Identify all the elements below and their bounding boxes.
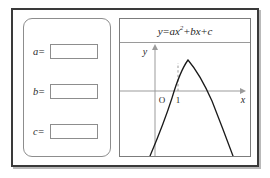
graph-display-panel: y=ax2+bx+c y x O bbox=[119, 18, 251, 157]
coefficient-input-a[interactable] bbox=[50, 44, 98, 59]
coefficient-label-c: c= bbox=[33, 126, 50, 137]
plot-area: y x O 1 bbox=[120, 43, 250, 156]
frame-inner-surface: a= b= c= y=ax2+bx+c bbox=[15, 12, 255, 163]
x-axis-label: x bbox=[240, 94, 246, 105]
y-axis-arrowhead bbox=[152, 44, 158, 50]
application-frame: a= b= c= y=ax2+bx+c bbox=[11, 8, 259, 167]
y-axis-label: y bbox=[142, 46, 148, 57]
coefficient-input-c[interactable] bbox=[50, 124, 98, 139]
coefficient-row-c: c= bbox=[33, 123, 105, 140]
coefficient-input-panel: a= b= c= bbox=[23, 18, 111, 157]
formula-bar: y=ax2+bx+c bbox=[120, 19, 250, 43]
coefficient-label-a: a= bbox=[33, 46, 50, 57]
formula-c: c bbox=[208, 25, 213, 37]
parabola-curve bbox=[150, 60, 233, 156]
formula-plus-2: + bbox=[200, 25, 207, 37]
coefficient-input-b[interactable] bbox=[50, 84, 98, 99]
formula-expression: y=ax2+bx+c bbox=[158, 24, 213, 37]
formula-equals: = bbox=[162, 25, 169, 37]
parabola-plot: y x O 1 bbox=[120, 43, 250, 156]
coefficient-row-a: a= bbox=[33, 43, 105, 60]
coefficient-label-b: b= bbox=[33, 86, 50, 97]
x-tick-label-1: 1 bbox=[176, 95, 181, 105]
coefficient-row-b: b= bbox=[33, 83, 105, 100]
origin-label: O bbox=[159, 95, 166, 105]
